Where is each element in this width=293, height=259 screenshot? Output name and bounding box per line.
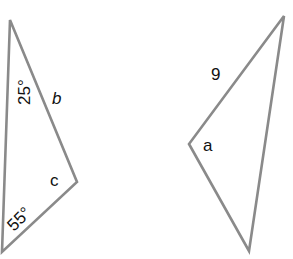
angle-label-25: 25° bbox=[15, 79, 34, 105]
diagram-canvas: 25° b c 55° 9 a bbox=[0, 0, 293, 259]
vertex-label-c: c bbox=[50, 171, 59, 190]
side-label-9: 9 bbox=[211, 65, 220, 84]
right-triangle bbox=[189, 16, 284, 251]
vertex-label-a: a bbox=[203, 136, 213, 155]
side-label-b: b bbox=[52, 89, 61, 108]
angle-label-55: 55° bbox=[3, 203, 35, 235]
